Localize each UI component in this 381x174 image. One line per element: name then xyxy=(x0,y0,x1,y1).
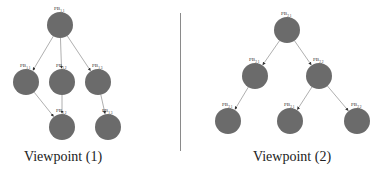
edge-m1-b1 xyxy=(235,87,248,109)
node-label: PB2,1 xyxy=(281,11,292,19)
node-label: PB2,1 xyxy=(222,102,233,110)
viewpoint-2-graph: PB2,1PB2,1PB2,2PB2,1PB2,1PB2,2 xyxy=(215,11,370,134)
node-label: PB1,3 xyxy=(102,108,113,116)
edge-m1-b1 xyxy=(34,92,53,116)
edge-r-m2 xyxy=(294,41,311,65)
node-r xyxy=(47,12,73,38)
node-m2 xyxy=(49,69,75,95)
node-m3 xyxy=(85,69,111,95)
node-label: PB2,2 xyxy=(351,102,362,110)
node-b3 xyxy=(344,108,370,134)
node-m1 xyxy=(242,63,268,89)
node-label: PB1,2 xyxy=(56,108,67,116)
node-m2 xyxy=(306,63,332,89)
node-label: PB1,1 xyxy=(54,6,65,14)
node-label: PB2,1 xyxy=(284,102,295,110)
node-r xyxy=(274,17,300,43)
viewpoint-divider xyxy=(180,13,181,151)
node-b2 xyxy=(277,108,303,134)
node-b1 xyxy=(215,108,241,134)
edge-r-m3 xyxy=(67,36,90,71)
edge-m2-b2 xyxy=(298,87,312,109)
node-m1 xyxy=(13,69,39,95)
node-b2 xyxy=(95,114,121,140)
node-b1 xyxy=(49,114,75,140)
edge-r-m1 xyxy=(33,36,53,70)
caption-viewpoint-1: Viewpoint (1) xyxy=(24,149,102,165)
edge-r-m1 xyxy=(263,41,280,65)
node-label: PB1,2 xyxy=(56,63,67,71)
caption-viewpoint-2: Viewpoint (2) xyxy=(253,149,331,165)
edge-m2-b3 xyxy=(327,86,348,110)
node-label: PB2,2 xyxy=(313,57,324,65)
diagram-canvas: PB1,1PB1,1PB1,2PB1,3PB1,2PB1,3PB2,1PB2,1… xyxy=(0,0,381,174)
node-label: PB2,1 xyxy=(249,57,260,65)
node-label: PB1,3 xyxy=(92,63,103,71)
viewpoint-1-graph: PB1,1PB1,1PB1,2PB1,3PB1,2PB1,3 xyxy=(13,6,121,140)
node-label: PB1,1 xyxy=(20,63,31,71)
